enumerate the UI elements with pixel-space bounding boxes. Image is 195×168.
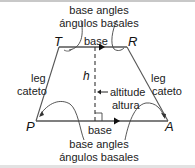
left-leg-line — [36, 47, 59, 121]
bottom-base-angles-label-en: base angles — [57, 138, 141, 150]
bottom-base-angles-label-es: ángulos basales — [52, 151, 146, 163]
bottom-base-label: base — [88, 124, 112, 136]
right-leg-label-es: cateto — [152, 85, 182, 97]
top-base-angles-label-es: ángulos basales — [52, 17, 146, 29]
vertex-t-label: T — [54, 35, 62, 48]
left-leg-label-en: leg — [31, 72, 46, 84]
vertex-p-label: P — [26, 120, 35, 133]
top-base-angles-label-en: base angles — [57, 4, 141, 16]
parallel-arrow-icon — [114, 118, 120, 125]
top-base-label: base — [84, 35, 108, 47]
arc-arrowhead-icon — [39, 111, 44, 117]
left-leg-label-es: cateto — [17, 85, 47, 97]
right-leg-label-en: leg — [151, 72, 166, 84]
height-label: h — [83, 70, 90, 83]
altitude-label-es: altura — [112, 99, 140, 111]
right-angle-marker — [95, 113, 102, 121]
arrow-left-icon — [97, 90, 101, 95]
altitude-label-en: altitude — [110, 86, 145, 98]
trapezoid-diagram: base angles ángulos basales T R P A base… — [0, 0, 195, 168]
vertex-a-label: A — [165, 120, 174, 133]
vertex-r-label: R — [128, 35, 137, 48]
